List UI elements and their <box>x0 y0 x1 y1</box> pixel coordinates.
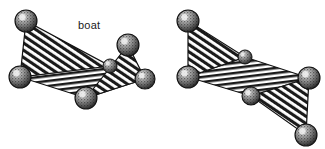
boat-conformer-panel: boat <box>0 0 162 149</box>
chair-vertex-sphere-lower-left <box>177 66 199 88</box>
boat-vertex-sphere-lower-left <box>9 66 31 88</box>
chair-conformer-panel: chair <box>163 0 325 149</box>
boat-vertex-sphere-raised-right-prow <box>117 34 139 56</box>
boat-vertex-sphere-lower-right <box>135 69 155 89</box>
chair-vertex-sphere-rear-middle <box>238 50 252 64</box>
chair-vertex-sphere-raised-upper-left <box>177 10 199 32</box>
boat-vertex-sphere-raised-left-prow <box>15 10 37 32</box>
cyclohexane-conformation-figure: boat <box>0 0 325 149</box>
chair-vertex-sphere-right <box>298 67 320 89</box>
chair-model-diagram <box>163 0 325 149</box>
boat-vertex-sphere-rear-middle <box>103 59 117 73</box>
boat-vertex-sphere-lower-front <box>75 87 97 109</box>
chair-vertex-sphere-front-middle <box>242 87 260 105</box>
boat-conformer-label: boat <box>78 20 100 31</box>
chair-vertex-sphere-lowered-lower-right <box>295 124 317 146</box>
